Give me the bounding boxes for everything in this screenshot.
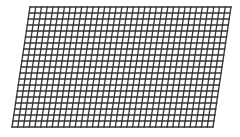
grid-lines	[12, 7, 231, 127]
skewed-grid-diagram	[0, 0, 240, 137]
